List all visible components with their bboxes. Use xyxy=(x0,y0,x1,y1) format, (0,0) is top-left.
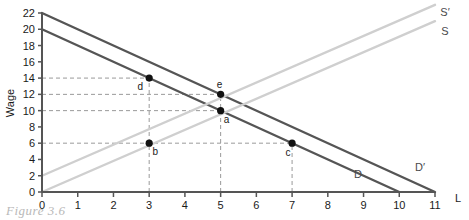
curve-label-s: S xyxy=(441,25,448,37)
figure-container: { "figure": { "caption": "Figure 3.6" },… xyxy=(0,0,469,220)
wage-labor-supply-demand-chart: 024681012141618202201234567891011 abcde … xyxy=(0,0,469,220)
y-tick-label: 0 xyxy=(29,186,35,198)
y-tick-label: 10 xyxy=(23,105,35,117)
curve-label-d: D xyxy=(354,168,362,180)
x-tick-label: 1 xyxy=(75,199,81,211)
x-tick-label: 10 xyxy=(393,199,405,211)
x-tick-label: 3 xyxy=(146,199,152,211)
y-tick-label: 20 xyxy=(23,23,35,35)
x-tick-label: 5 xyxy=(218,199,224,211)
x-tick-label: 8 xyxy=(325,199,331,211)
curve-lines-group xyxy=(42,5,435,192)
x-tick-label: 6 xyxy=(253,199,259,211)
curve-label-d-prime: D′ xyxy=(415,161,425,173)
y-axis-title: Wage xyxy=(4,89,16,117)
y-tick-label: 8 xyxy=(29,121,35,133)
y-tick-label: 4 xyxy=(29,153,35,165)
y-tick-label: 18 xyxy=(23,40,35,52)
x-axis-title: L xyxy=(455,192,461,204)
curve-labels-group: DD′SS′ xyxy=(354,6,450,180)
y-tick-label: 16 xyxy=(23,56,35,68)
x-tick-label: 2 xyxy=(110,199,116,211)
x-tick-label: 11 xyxy=(429,199,440,211)
axis-titles-group: WageL xyxy=(4,89,461,204)
tick-marks-group xyxy=(38,13,435,197)
curve-label-s-prime: S′ xyxy=(440,6,449,18)
figure-caption: Figure 3.6 xyxy=(6,203,65,219)
x-tick-label: 9 xyxy=(360,199,366,211)
data-point-label-d: d xyxy=(137,81,143,92)
data-point-label-a: a xyxy=(224,114,230,125)
y-tick-label: 6 xyxy=(29,137,35,149)
data-point-label-e: e xyxy=(217,79,223,90)
x-tick-label: 4 xyxy=(182,199,188,211)
data-point-label-c: c xyxy=(286,147,291,158)
y-tick-label: 22 xyxy=(23,7,35,19)
data-point-label-b: b xyxy=(152,146,158,157)
y-tick-label: 14 xyxy=(23,72,35,84)
curve-s-prime xyxy=(42,5,435,176)
y-tick-label: 2 xyxy=(29,170,35,182)
data-point-c xyxy=(288,140,295,147)
data-point-e xyxy=(217,91,224,98)
data-point-d xyxy=(146,74,153,81)
x-tick-label: 7 xyxy=(289,199,295,211)
y-tick-label: 12 xyxy=(23,88,35,100)
